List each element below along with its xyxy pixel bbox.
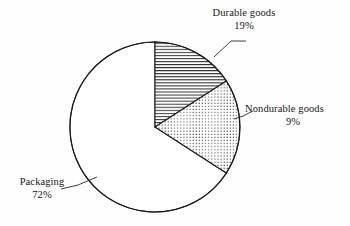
slice-label-packaging-name: Packaging bbox=[6, 176, 78, 189]
slice-label-nondurable-goods-name: Nondurable goods bbox=[245, 103, 349, 116]
slice-label-packaging-value: 72% bbox=[6, 189, 78, 202]
slice-label-durable-goods-name: Durable goods bbox=[196, 7, 292, 20]
pie-chart-figure: Durable goods 19% Nondurable goods 9% Pa… bbox=[0, 0, 350, 226]
slice-label-durable-goods: Durable goods 19% bbox=[196, 7, 292, 32]
slice-label-durable-goods-value: 19% bbox=[196, 20, 292, 33]
slice-label-nondurable-goods: Nondurable goods 9% bbox=[245, 103, 349, 128]
slice-label-nondurable-goods-value: 9% bbox=[245, 116, 341, 129]
leader-line-durable-goods bbox=[214, 41, 246, 57]
slice-label-packaging: Packaging 72% bbox=[6, 176, 78, 201]
